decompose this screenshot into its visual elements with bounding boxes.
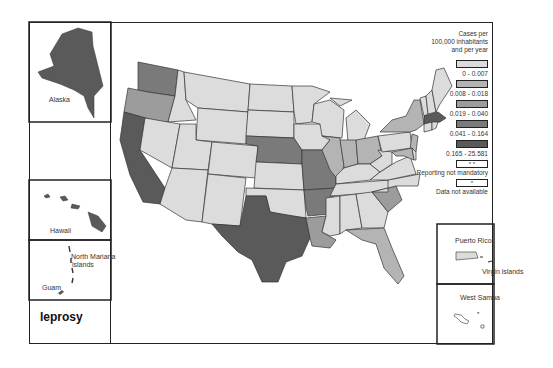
legend-label-not-mandatory: Reporting not mandatory (398, 168, 488, 177)
west-samoa-inset (437, 284, 494, 344)
legend-item-2: 0.008 - 0.018 (398, 80, 488, 98)
state-sd (246, 110, 294, 138)
legend-label-3: 0.019 - 0.040 (398, 109, 488, 118)
state-wy (196, 108, 248, 144)
legend-heading-3: and per year (398, 46, 488, 54)
legend-swatch-not-available: * (456, 179, 488, 187)
ws-asterisk: * (477, 311, 480, 317)
legend-swatch-1 (456, 60, 488, 68)
territory-ws (454, 314, 484, 328)
legend-swatch-not-mandatory: * * (456, 160, 488, 168)
legend-label-not-available: Data not available (398, 187, 488, 196)
state-co (208, 142, 258, 178)
territory-pr (456, 252, 478, 260)
map-title: leprosy (40, 310, 83, 324)
north-mariana-label-1: North Mariana (71, 253, 115, 261)
legend-item-3: 0.019 - 0.040 (398, 100, 488, 118)
state-az (160, 168, 208, 222)
legend-swatch-2 (456, 80, 488, 88)
legend-item-4: 0.041 - 0.164 (398, 120, 488, 138)
guam-label: Guam (42, 284, 61, 292)
state-nm (202, 174, 246, 226)
state-nd (248, 84, 294, 112)
alaska-label: Alaska (49, 96, 70, 104)
west-samoa-label: West Samoa (460, 294, 500, 302)
hawaii-label: Hawaii (50, 227, 71, 235)
state-ak (38, 28, 103, 118)
legend-label-4: 0.041 - 0.164 (398, 129, 488, 138)
legend-item-5: 0.165 - 25.581 (398, 140, 488, 158)
legend-heading: Cases per 100,000 inhabitants and per ye… (398, 30, 488, 54)
legend-item-not-mandatory: * * Reporting not mandatory (398, 160, 488, 177)
legend-heading-2: 100,000 inhabitants (398, 38, 488, 46)
legend-item-1: 0 - 0.007 (398, 60, 488, 78)
legend-label-2: 0.008 - 0.018 (398, 89, 488, 98)
legend-label-5: 0.165 - 25.581 (398, 149, 488, 158)
legend: Cases per 100,000 inhabitants and per ye… (398, 30, 488, 198)
state-fl (346, 228, 404, 284)
legend-label-1: 0 - 0.007 (398, 69, 488, 78)
state-mt (184, 72, 250, 112)
legend-swatch-5 (456, 140, 488, 148)
virgin-islands-shape (480, 257, 492, 262)
puerto-rico-label: Puerto Rico (455, 237, 492, 245)
north-mariana-label-2: islands (72, 261, 94, 269)
state-ks (254, 162, 304, 190)
legend-item-not-available: * Data not available (398, 179, 488, 196)
legend-heading-1: Cases per (398, 30, 488, 38)
legend-swatch-4 (456, 120, 488, 128)
legend-swatch-3 (456, 100, 488, 108)
virgin-islands-label: Virgin islands (482, 268, 524, 276)
